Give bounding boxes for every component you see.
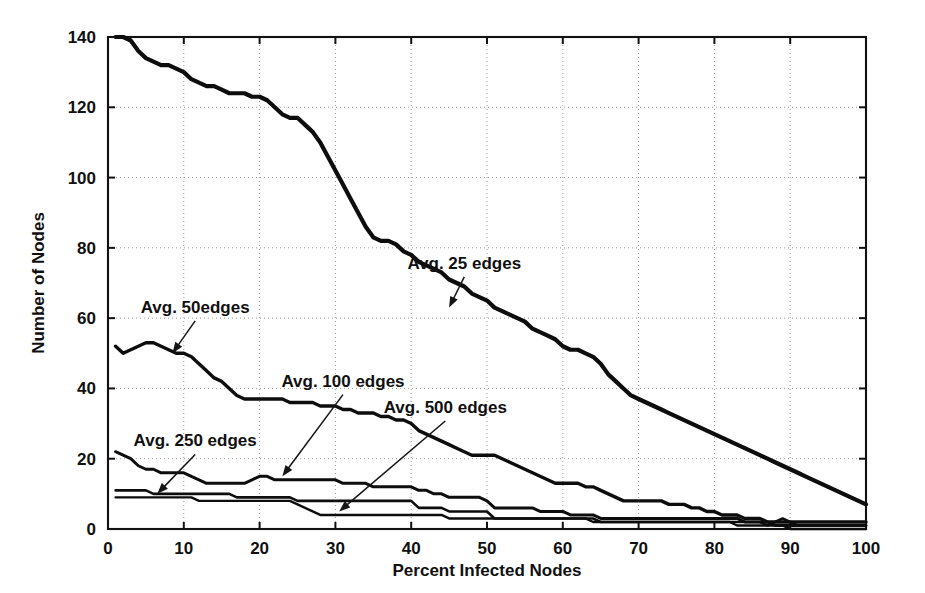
y-tick-label: 80 [77, 239, 96, 258]
x-axis-tick-labels: 0102030405060708090100 [103, 539, 880, 558]
annotation-leader-line [164, 454, 196, 487]
y-tick-label: 0 [87, 520, 96, 539]
y-axis-tick-labels: 020406080100120140 [68, 28, 96, 539]
y-tick-label: 100 [68, 169, 96, 188]
annotation-leader-line [288, 395, 343, 469]
y-tick-label: 120 [68, 98, 96, 117]
x-tick-label: 10 [174, 539, 193, 558]
series-annotation-label: Avg. 250 edges [134, 431, 257, 450]
series-annotation-label: Avg. 100 edges [281, 372, 404, 391]
x-tick-label: 50 [478, 539, 497, 558]
data-series-line [116, 490, 866, 525]
series-annotation-label: Avg. 25 edges [407, 254, 521, 273]
x-tick-label: 90 [781, 539, 800, 558]
x-tick-label: 40 [402, 539, 421, 558]
series-annotation-label: Avg. 500 edges [384, 398, 507, 417]
series-annotation-label: Avg. 50edges [141, 298, 250, 317]
x-tick-label: 80 [705, 539, 724, 558]
x-tick-label: 100 [852, 539, 880, 558]
x-axis-title: Percent Infected Nodes [393, 561, 582, 580]
y-tick-label: 60 [77, 309, 96, 328]
annotation-arrow-head [172, 342, 182, 353]
annotation-arrow-head [449, 296, 458, 308]
chart-figure: 0102030405060708090100 02040608010012014… [0, 0, 925, 593]
annotation-leader-line [178, 321, 196, 346]
x-tick-label: 70 [629, 539, 648, 558]
y-tick-label: 40 [77, 379, 96, 398]
series-annotations: Avg. 25 edgesAvg. 50edgesAvg. 100 edgesA… [134, 254, 522, 511]
x-tick-label: 20 [250, 539, 269, 558]
data-series-group [116, 37, 866, 529]
y-tick-label: 20 [77, 450, 96, 469]
x-tick-label: 30 [326, 539, 345, 558]
chart-canvas: 0102030405060708090100 02040608010012014… [0, 0, 925, 593]
y-axis-title: Number of Nodes [29, 212, 48, 354]
x-tick-label: 0 [103, 539, 112, 558]
y-tick-label: 140 [68, 28, 96, 47]
x-tick-label: 60 [553, 539, 572, 558]
annotation-arrow-head [282, 465, 292, 476]
